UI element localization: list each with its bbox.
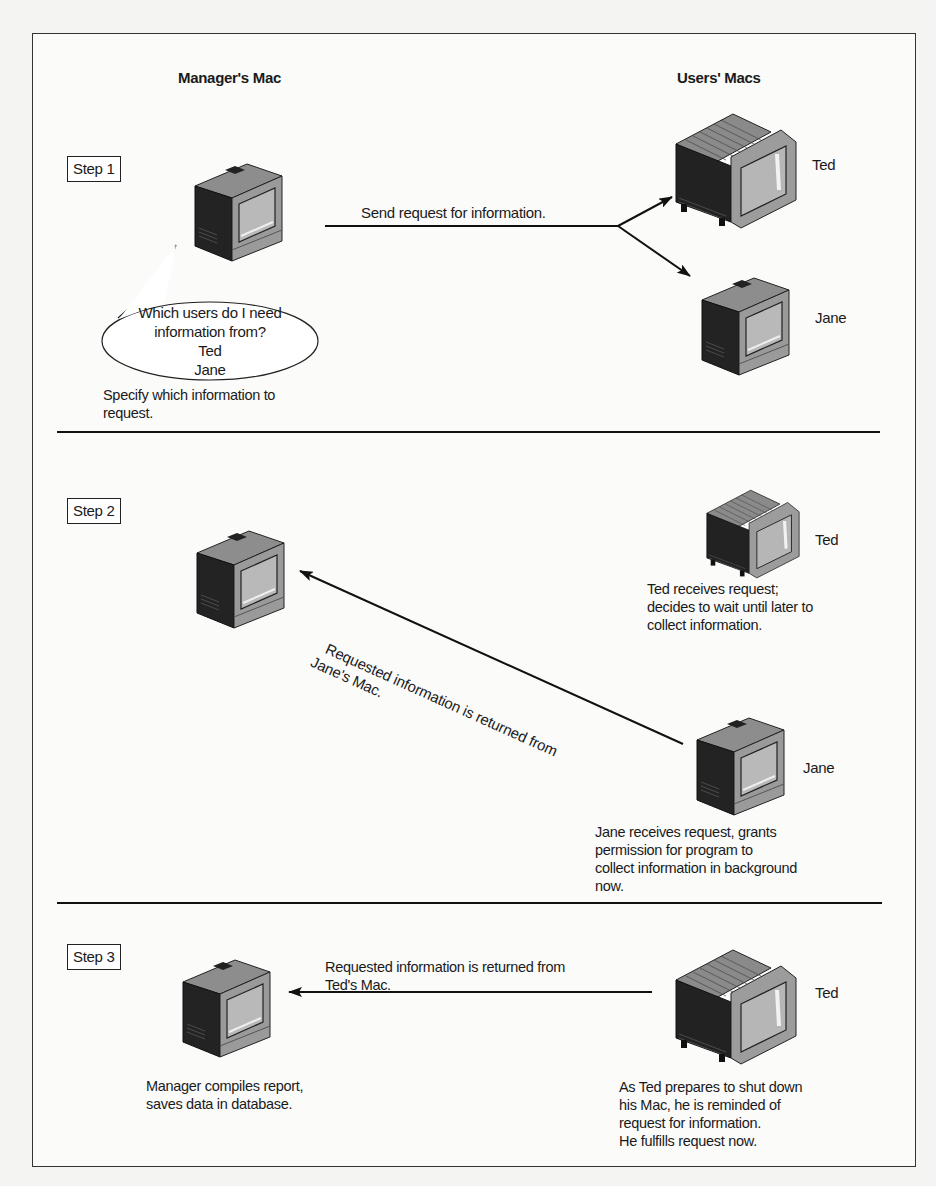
- user-name-jane: Jane: [815, 308, 846, 327]
- user-name-ted: Ted: [815, 983, 838, 1002]
- step-3-arrow-label: Requested information is returned from T…: [325, 958, 565, 994]
- bubble-line: Ted: [102, 341, 318, 360]
- step-1-label: Step 1: [67, 156, 121, 182]
- manager-mac-icon: [187, 146, 287, 266]
- manager-mac-icon: [189, 513, 289, 633]
- bubble-line: Which users do I need: [102, 303, 318, 322]
- bubble-line: information from?: [102, 322, 318, 341]
- step-3-label: Step 3: [67, 944, 121, 970]
- user-name-jane: Jane: [803, 758, 834, 777]
- ted-step-3-caption: As Ted prepares to shut down his Mac, he…: [619, 1078, 802, 1150]
- step-1-manager-caption: Specify which information to request.: [103, 386, 275, 422]
- manager-mac-icon: [175, 942, 275, 1062]
- jane-mac-icon: [694, 260, 794, 380]
- ted-mac-icon: [671, 102, 801, 232]
- step-2-label: Step 2: [67, 498, 121, 524]
- user-name-ted: Ted: [815, 530, 838, 549]
- ted-step-2-caption: Ted receives request; decides to wait un…: [647, 580, 813, 634]
- jane-mac-icon: [689, 700, 789, 820]
- ted-mac-icon: [703, 466, 803, 596]
- bubble-line: Jane: [102, 360, 318, 379]
- user-name-ted: Ted: [812, 155, 835, 174]
- step-3-manager-caption: Manager compiles report, saves data in d…: [146, 1077, 303, 1113]
- jane-step-2-caption: Jane receives request, grants permission…: [595, 823, 797, 895]
- send-request-label: Send request for information.: [361, 203, 546, 222]
- ted-mac-icon: [671, 938, 801, 1068]
- thought-bubble-text: Which users do I need information from? …: [102, 303, 318, 379]
